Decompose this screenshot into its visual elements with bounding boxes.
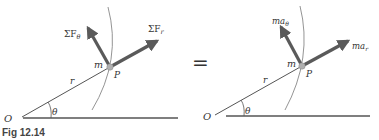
right-panel: O θ r m P maθ mar <box>203 6 370 122</box>
left-radius-label: r <box>70 76 75 86</box>
ma-r-arrow <box>302 41 348 66</box>
left-origin-label: O <box>4 113 12 124</box>
right-radial-line <box>215 66 302 115</box>
right-angle-label: θ <box>245 106 251 116</box>
right-radius-label: r <box>263 75 268 85</box>
left-angle-label: θ <box>52 107 58 117</box>
right-particle-point <box>299 63 305 69</box>
left-radial-line <box>22 67 110 117</box>
right-point-label: P <box>305 69 313 79</box>
right-origin-label: O <box>203 111 211 122</box>
left-point-label: P <box>113 70 121 80</box>
equals-sign: = <box>192 51 209 75</box>
sum-f-r-label: ΣFr <box>148 24 165 36</box>
left-mass-label: m <box>94 59 103 70</box>
figure-caption: Fig 12.14 <box>2 127 45 138</box>
ma-theta-label: maθ <box>272 16 289 27</box>
sum-f-theta-label: ΣFθ <box>64 29 81 41</box>
left-particle-point <box>107 64 113 70</box>
left-angle-arc <box>48 102 51 118</box>
free-body-diagram: O θ r m P ΣFθ ΣFr = O θ r m P maθ mar Fi… <box>0 0 379 140</box>
sum-f-r-arrow <box>110 41 157 67</box>
ma-r-label: mar <box>352 41 369 52</box>
right-mass-label: m <box>287 58 296 69</box>
left-panel: O θ r m P ΣFθ ΣFr <box>4 7 178 124</box>
right-angle-arc <box>241 100 244 116</box>
